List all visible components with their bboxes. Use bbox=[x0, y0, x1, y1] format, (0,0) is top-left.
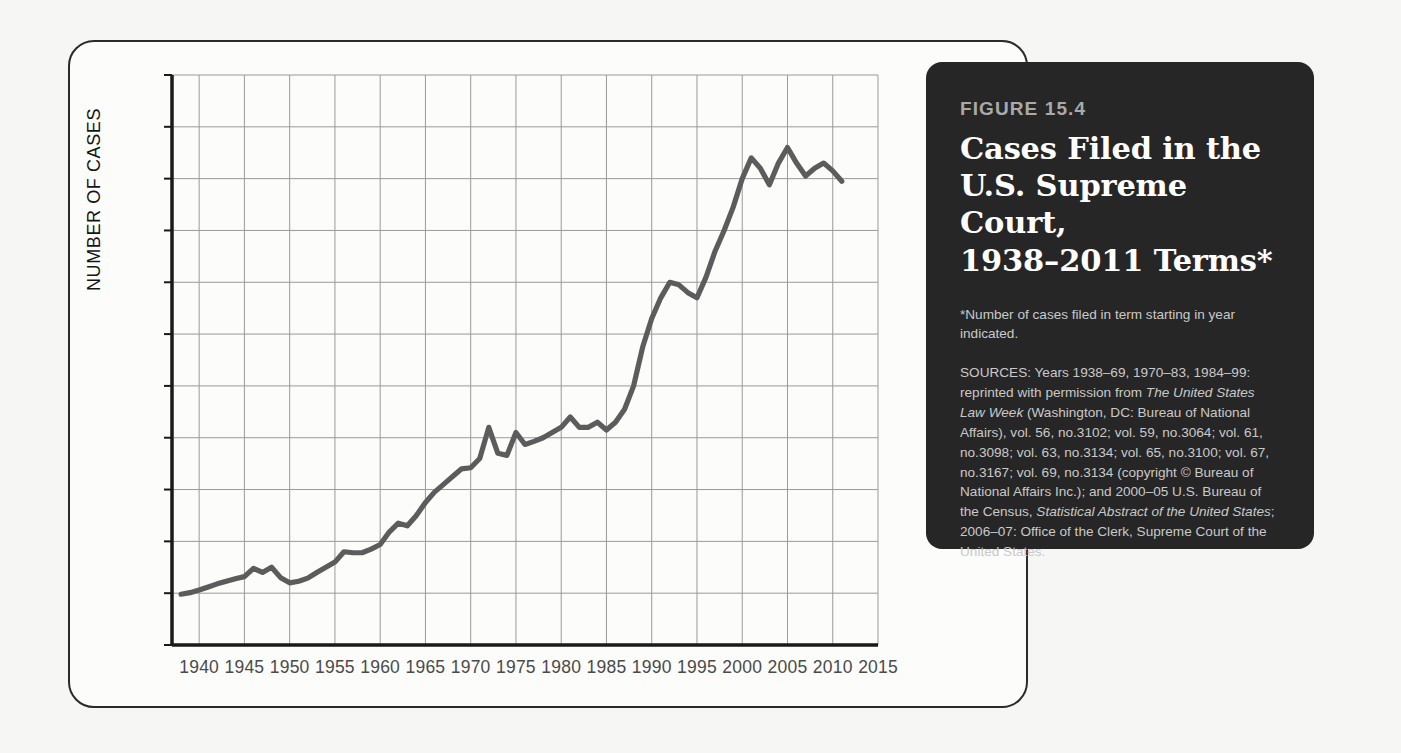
figure-footnote: *Number of cases filed in term starting … bbox=[960, 305, 1280, 344]
x-tick-label: 2005 bbox=[768, 657, 808, 678]
x-tick-label: 1965 bbox=[406, 657, 446, 678]
line-chart-svg bbox=[172, 75, 878, 645]
x-tick-label: 1970 bbox=[451, 657, 491, 678]
x-tick-label: 2000 bbox=[722, 657, 762, 678]
figure-caption-panel: FIGURE 15.4 Cases Filed in theU.S. Supre… bbox=[926, 62, 1314, 549]
y-axis-title: NUMBER OF CASES bbox=[84, 41, 105, 291]
figure-title: Cases Filed in theU.S. Supreme Court,193… bbox=[960, 130, 1280, 279]
x-tick-label: 1950 bbox=[270, 657, 310, 678]
plot-area bbox=[172, 75, 878, 645]
x-tick-label: 1955 bbox=[315, 657, 355, 678]
x-tick-label: 1985 bbox=[587, 657, 627, 678]
x-tick-label: 2015 bbox=[858, 657, 898, 678]
figure-number: FIGURE 15.4 bbox=[960, 98, 1280, 120]
x-tick-label: 1995 bbox=[677, 657, 717, 678]
x-tick-label: 1945 bbox=[225, 657, 265, 678]
x-tick-label: 1975 bbox=[496, 657, 536, 678]
x-tick-label: 1980 bbox=[541, 657, 581, 678]
x-tick-label: 1960 bbox=[360, 657, 400, 678]
x-tick-label: 1940 bbox=[179, 657, 219, 678]
x-tick-label: 1990 bbox=[632, 657, 672, 678]
x-tick-label: 2010 bbox=[813, 657, 853, 678]
figure-sources: SOURCES: Years 1938–69, 1970–83, 1984–99… bbox=[960, 363, 1280, 561]
